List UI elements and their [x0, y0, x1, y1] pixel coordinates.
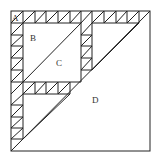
- label-c: C: [56, 58, 62, 68]
- label-a: A: [12, 13, 19, 23]
- label-d: D: [92, 95, 99, 105]
- label-b: B: [30, 33, 36, 43]
- lower-left-hatched-strip: [11, 94, 23, 139]
- square-diagram: A B C D: [0, 0, 159, 155]
- top-right-hatched-strip: [81, 11, 139, 23]
- inner-bc-diagonal: [23, 23, 81, 82]
- inner-top-right-diagonal: [92, 23, 139, 70]
- top-left-hatched-strip: [11, 11, 81, 23]
- middle-horizontal-hatched-strip: [11, 82, 81, 94]
- left-hatched-strip: [11, 23, 23, 82]
- inner-lower-diagonal: [23, 94, 70, 139]
